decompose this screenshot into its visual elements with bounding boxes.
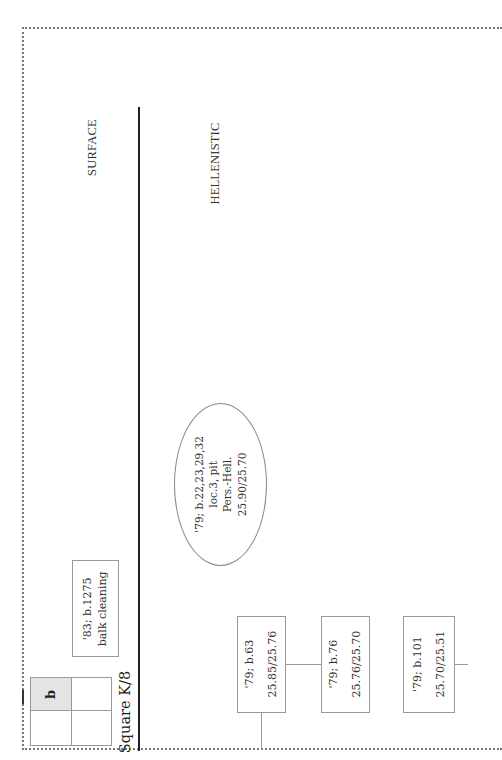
node-b63-line-1: '79; b.63 — [238, 631, 261, 698]
quadrant-bottom-right — [72, 711, 112, 745]
node-b22-pit-ellipse: '79; b.22,23,29,32 loc.3, pit Pers.-Hell… — [174, 403, 267, 566]
node-b101-line-2: 25.70/25.51 — [429, 631, 452, 698]
node-b63-line-2: 25.85/25.76 — [262, 631, 285, 698]
node-b22-line-1: '79; b.22,23,29,32 — [192, 436, 206, 533]
connector-b63-b76 — [286, 664, 321, 665]
node-b76-line-1: '79; b.76 — [322, 631, 345, 698]
connector-b101-right — [455, 664, 468, 665]
node-b1275: '83; b.1275 balk cleaning — [72, 560, 119, 657]
node-b76: '79; b.76 25.76/25.70 — [321, 616, 370, 713]
node-b22-line-4: 25.90/25.70 — [235, 436, 249, 533]
phase-label-surface-text: SURFACE — [85, 119, 100, 176]
phase-baseline — [138, 107, 140, 751]
phase-label-surface: SURFACE — [76, 122, 108, 172]
connector-b63-baseline — [261, 713, 262, 750]
node-b1275-line-1: '83; b.1275 — [81, 571, 96, 646]
node-b63: '79; b.63 25.85/25.76 — [237, 616, 286, 713]
quadrant-b-label: b — [44, 689, 59, 698]
quadrant-bottom-left — [31, 711, 72, 745]
square-label: Square K/8 — [113, 676, 137, 748]
quadrant-b: b — [31, 678, 72, 711]
phase-label-hellenistic: HELLENISTIC — [199, 126, 231, 200]
quadrant-top-right — [72, 678, 112, 711]
square-quadrant-grid: b — [30, 677, 112, 746]
node-b101-line-1: '79; b.101 — [406, 631, 429, 698]
node-b22-line-2: loc.3, pit — [206, 436, 220, 533]
square-label-text: Square K/8 — [117, 671, 133, 753]
frame-tick-mark — [22, 690, 24, 704]
phase-label-hellenistic-text: HELLENISTIC — [208, 122, 223, 204]
node-b101: '79; b.101 25.70/25.51 — [403, 616, 455, 713]
node-b22-line-3: Pers.-Hell. — [221, 436, 235, 533]
node-b1275-line-2: balk cleaning — [96, 571, 111, 646]
node-b76-line-2: 25.76/25.70 — [346, 631, 369, 698]
